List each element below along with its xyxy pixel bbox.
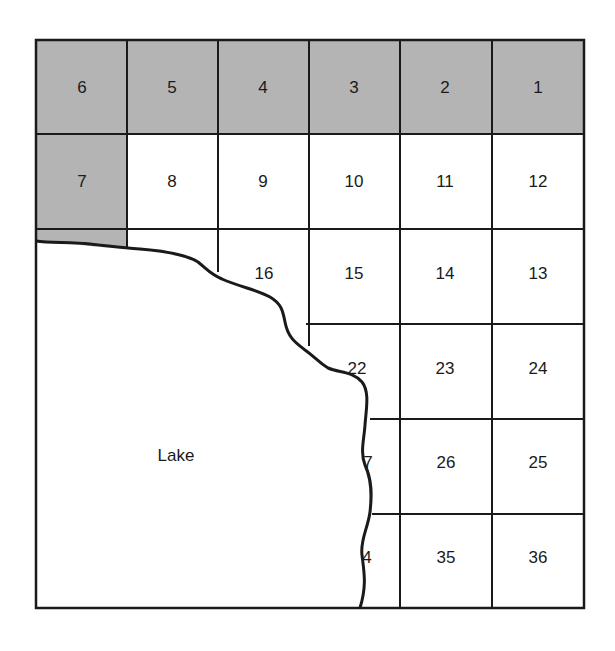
section-label: 36 [529, 548, 548, 567]
section-label: 1 [533, 78, 542, 97]
section-label-partial: 7 [363, 453, 372, 472]
section-label: 5 [167, 78, 176, 97]
section-label: 11 [436, 172, 454, 191]
section-label: 2 [440, 78, 449, 97]
section-label: 25 [529, 453, 548, 472]
section-label: 24 [529, 359, 548, 378]
section-label: 22 [348, 359, 367, 378]
section-label: 9 [258, 172, 267, 191]
section-label: 3 [349, 78, 358, 97]
section-label: 35 [437, 548, 456, 567]
section-label: 12 [529, 172, 548, 191]
section-label: 6 [77, 78, 86, 97]
section-label: 13 [529, 264, 548, 283]
section-18-shaded-sliver [36, 229, 127, 248]
section-label: 16 [255, 264, 274, 283]
section-label: 4 [258, 78, 267, 97]
lake-label: Lake [158, 446, 195, 465]
section-label-partial: 4 [362, 548, 371, 567]
section-label: 26 [437, 453, 456, 472]
section-label: 7 [77, 172, 86, 191]
section-label: 15 [345, 264, 364, 283]
section-label: 14 [436, 264, 455, 283]
section-labels: 6 5 4 3 2 1 7 8 9 10 11 12 16 15 14 13 2… [77, 78, 547, 567]
section-label: 23 [436, 359, 455, 378]
section-label: 10 [345, 172, 364, 191]
township-map: 6 5 4 3 2 1 7 8 9 10 11 12 16 15 14 13 2… [0, 0, 615, 651]
lake-shoreline [36, 241, 371, 608]
section-label: 8 [167, 172, 176, 191]
